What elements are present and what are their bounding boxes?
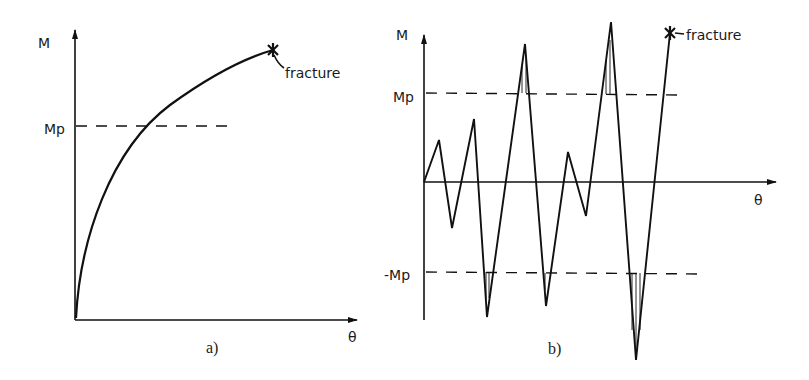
- x-label-b: θ: [754, 192, 763, 208]
- x-label-a: θ: [348, 329, 357, 345]
- fracture-leader-a: [274, 55, 284, 68]
- y-label-a: M: [38, 35, 50, 51]
- mp-label-a: Mp: [44, 121, 65, 137]
- y-label-b: M: [396, 27, 408, 43]
- neg-mp-label-b: -Mp: [384, 267, 410, 283]
- moment-curve-a: [76, 50, 273, 318]
- fracture-leader-b: [675, 33, 684, 34]
- moment-history-b: [424, 22, 670, 360]
- panel-b: M Mp -Mp fracture θ b): [384, 22, 776, 360]
- fracture-label-a: fracture: [285, 65, 340, 81]
- mp-line-b: [426, 93, 684, 95]
- caption-a: a): [206, 339, 218, 357]
- panel-a: M Mp fracture θ a): [38, 30, 357, 357]
- caption-b: b): [548, 340, 561, 358]
- mp-label-b: Mp: [393, 89, 414, 105]
- fracture-label-b: fracture: [686, 27, 741, 43]
- plastic-hatching: [486, 40, 640, 350]
- figure: M Mp fracture θ a) M: [0, 0, 809, 380]
- neg-mp-line-b: [426, 272, 703, 274]
- fracture-star-icon: [665, 26, 675, 40]
